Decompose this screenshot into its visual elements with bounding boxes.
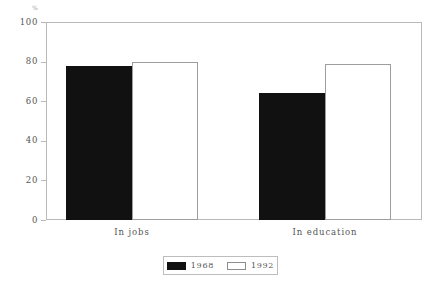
bar-in-jobs-1992	[132, 62, 198, 220]
y-tick-label-20: 20	[8, 176, 38, 185]
legend-swatch-icon-1992	[227, 262, 246, 270]
legend-swatch-icon-1968	[167, 262, 186, 270]
bar-in-education-1992	[325, 64, 391, 220]
y-tick-label-100: 100	[8, 18, 38, 27]
x-category-label-in-jobs: In jobs	[92, 227, 172, 237]
bar-in-jobs-1968	[66, 66, 132, 220]
x-category-label-in-education: In education	[285, 227, 365, 237]
legend-entry-1968: 1968	[167, 261, 214, 270]
y-tick-mark-0	[41, 220, 46, 221]
y-tick-label-0: 0	[8, 216, 38, 225]
y-tick-label-60: 60	[8, 97, 38, 106]
legend-label-1992: 1992	[251, 261, 274, 270]
y-tick-label-80: 80	[8, 57, 38, 66]
legend-label-1968: 1968	[191, 261, 214, 270]
y-axis-labels: 100 80 60 40 20 0	[0, 0, 38, 292]
legend-entry-1992: 1992	[227, 261, 274, 270]
bar-in-education-1968	[259, 93, 325, 220]
chart-legend: 1968 1992	[163, 256, 278, 275]
bar-chart-figure: % 100 80 60 40 20 0 In jobs In education…	[0, 0, 439, 292]
scan-artifact	[0, 0, 439, 4]
bars-layer	[46, 22, 422, 220]
y-tick-label-40: 40	[8, 136, 38, 145]
